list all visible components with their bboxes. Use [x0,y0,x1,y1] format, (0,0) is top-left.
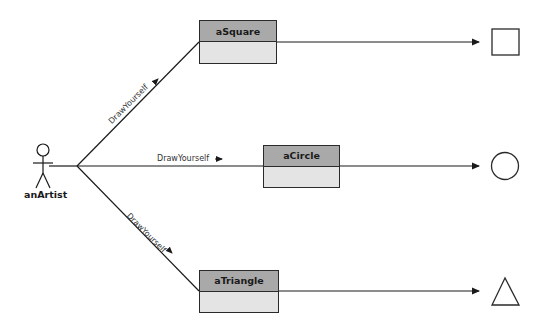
actor-label: anArtist [24,189,67,200]
object-asquare[interactable]: aSquare [199,20,277,64]
object-asquare-name: aSquare [200,21,276,42]
circle-shape-icon [492,153,519,180]
message-arrow-square [154,79,158,83]
object-acircle[interactable]: aCircle [263,145,340,188]
diagram-canvas: anArtist aSquare aCircle aTriangle DrawY… [0,0,543,330]
object-atriangle-name: aTriangle [200,271,278,292]
object-atriangle[interactable]: aTriangle [199,270,279,313]
message-label-circle: DrawYourself [157,154,209,163]
object-acircle-name: aCircle [264,146,339,167]
message-line-square [77,42,199,166]
square-shape-icon [492,29,519,55]
message-arrow-triangle [168,249,172,253]
triangle-shape-icon [492,278,519,305]
